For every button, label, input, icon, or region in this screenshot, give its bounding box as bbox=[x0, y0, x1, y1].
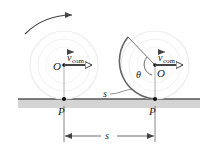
right-angle-radius bbox=[128, 37, 155, 65]
svg-text:com: com bbox=[72, 57, 85, 65]
right-contact-label: P bbox=[148, 105, 156, 117]
arc-s-leader bbox=[110, 89, 132, 94]
ground-strip bbox=[18, 99, 200, 108]
right-contact-point bbox=[153, 97, 157, 101]
right-wheel bbox=[119, 31, 189, 101]
arc-s-label: s bbox=[103, 88, 107, 99]
right-velocity-label: v com bbox=[158, 52, 176, 65]
svg-text:com: com bbox=[163, 57, 176, 65]
rolling-wheel-diagram: O v com P O v com θ P s s bbox=[0, 0, 215, 155]
theta-angle-arc bbox=[144, 57, 152, 75]
left-contact-point bbox=[62, 97, 66, 101]
left-contact-label: P bbox=[57, 105, 65, 117]
left-wheel bbox=[30, 31, 98, 101]
right-center-label: O bbox=[157, 67, 165, 79]
left-velocity-label: v com bbox=[67, 52, 85, 65]
dimension-s-label: s bbox=[105, 130, 109, 141]
left-center-label: O bbox=[53, 60, 61, 72]
theta-label: θ bbox=[136, 69, 141, 80]
